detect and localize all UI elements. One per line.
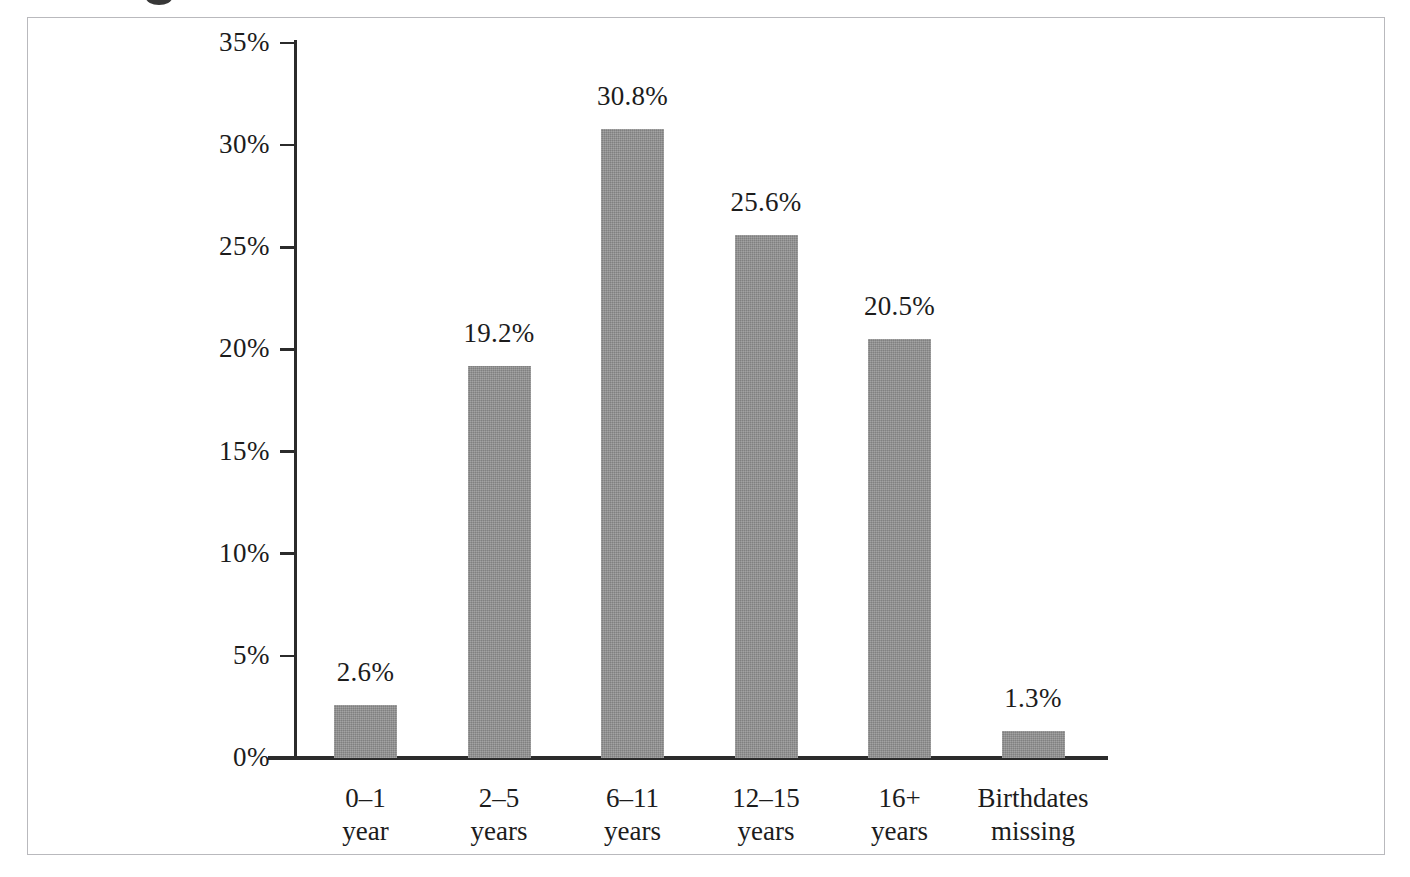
bar-value-label: 19.2% — [409, 320, 589, 347]
x-axis-category-label: Birthdatesmissing — [923, 782, 1143, 848]
x-axis-category-label-line: Birthdates — [923, 782, 1143, 815]
bar-value-label: 1.3% — [943, 685, 1123, 712]
y-axis-tick — [280, 144, 296, 147]
y-axis-tick — [280, 348, 296, 351]
bar — [334, 705, 397, 758]
x-axis-category-label-line: missing — [923, 815, 1143, 848]
y-axis-tick-label: 5% — [160, 642, 270, 669]
y-axis-tick — [280, 757, 296, 760]
y-axis-tick — [280, 552, 296, 555]
bar — [735, 235, 798, 758]
y-axis-tick — [280, 42, 296, 45]
y-axis-tick-label: 20% — [160, 335, 270, 362]
bar-chart-plot-area: 0%5%10%15%20%25%30%35% 2.6%19.2%30.8%25.… — [0, 0, 1410, 877]
y-axis-tick — [280, 655, 296, 658]
bar — [601, 129, 664, 758]
bar-value-label: 2.6% — [276, 659, 456, 686]
y-axis-line — [294, 40, 297, 760]
y-axis-tick-label: 30% — [160, 131, 270, 158]
y-axis-tick-label: 15% — [160, 438, 270, 465]
bar — [868, 339, 931, 758]
y-axis-tick — [280, 450, 296, 453]
y-axis-tick — [280, 246, 296, 249]
y-axis-tick-label: 10% — [160, 540, 270, 567]
y-axis-tick-label: 25% — [160, 233, 270, 260]
bar — [468, 366, 531, 758]
bar-value-label: 20.5% — [810, 293, 990, 320]
y-axis-tick-label: 35% — [160, 29, 270, 56]
bar-value-label: 25.6% — [676, 189, 856, 216]
y-axis-tick-label: 0% — [160, 744, 270, 771]
bar-value-label: 30.8% — [543, 83, 723, 110]
bar — [1002, 731, 1065, 758]
